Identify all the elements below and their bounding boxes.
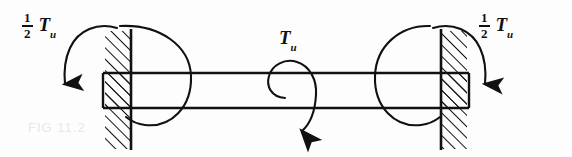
right-fraction-numerator: 1	[479, 11, 490, 25]
center-spiral-path	[268, 61, 316, 131]
center-torque-label: Tu	[279, 28, 297, 51]
left-torque-fraction: 1 2	[22, 11, 33, 41]
right-torque-symbol-subscript: u	[507, 28, 513, 40]
shaft-body	[103, 73, 469, 108]
shaft-member	[103, 73, 469, 108]
right-fraction-denominator: 2	[479, 27, 490, 41]
right-torque-fraction: 1 2	[479, 11, 490, 41]
left-fraction-denominator: 2	[22, 27, 33, 41]
embedded-ends	[105, 74, 467, 107]
left-torque-symbol-subscript: u	[50, 28, 56, 40]
right-torque-symbol: Tu	[496, 15, 514, 38]
torsion-diagram-figure: FIG 11.2	[0, 0, 572, 157]
right-torque-label: 1 2 Tu	[479, 12, 513, 42]
left-embedded-hatch	[105, 74, 131, 107]
center-applied-torque-arrow	[268, 61, 316, 131]
center-torque-symbol-subscript: u	[291, 41, 297, 53]
right-embedded-hatch	[441, 74, 467, 107]
right-reaction-torque-arc	[375, 26, 440, 125]
center-torque-symbol: Tu	[279, 28, 297, 51]
left-fraction-numerator: 1	[22, 11, 33, 25]
right-arc-path	[375, 26, 440, 125]
left-torque-symbol: Tu	[39, 15, 57, 38]
center-torque-symbol-letter: T	[279, 27, 291, 48]
right-torque-symbol-letter: T	[496, 14, 508, 35]
left-torque-label: 1 2 Tu	[22, 12, 56, 42]
left-torque-symbol-letter: T	[39, 14, 51, 35]
